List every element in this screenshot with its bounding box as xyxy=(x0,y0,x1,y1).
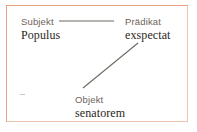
diagram-screenshot: Subjekt Populus Prädikat exspectat Objek… xyxy=(0,0,197,132)
margin-dash-artifact xyxy=(20,94,25,95)
connector-predicate-object xyxy=(83,43,138,88)
node-subject-role: Subjekt xyxy=(21,17,60,27)
node-predicate: Prädikat exspectat xyxy=(125,17,171,42)
node-object-role: Objekt xyxy=(75,95,125,105)
node-object-word: senatorem xyxy=(75,107,125,120)
node-object: Objekt senatorem xyxy=(75,95,125,120)
diagram-frame: Subjekt Populus Prädikat exspectat Objek… xyxy=(6,5,188,122)
node-predicate-word: exspectat xyxy=(125,29,171,42)
node-subject-word: Populus xyxy=(21,29,60,42)
node-predicate-role: Prädikat xyxy=(125,17,171,27)
node-subject: Subjekt Populus xyxy=(21,17,60,42)
